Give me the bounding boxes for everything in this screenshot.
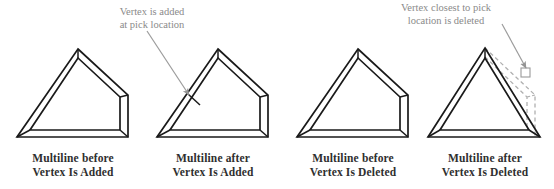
delete-annotation-line-2: location is deleted <box>378 15 514 28</box>
caption-1-line-1: Multiline before <box>8 152 138 166</box>
panel-3-joint-right <box>400 95 408 97</box>
panel-3-inner-outline <box>310 58 400 130</box>
caption-3-line-1: Multiline before <box>288 152 418 166</box>
panel-4-inner-outline <box>440 58 529 130</box>
add-annotation-leader-arrow <box>147 31 189 95</box>
panel-2-joint-right <box>260 95 268 97</box>
panel-3-joint-bottom-right <box>400 130 408 137</box>
add-annotation-line-1: Vertex is added <box>93 6 211 19</box>
panel-2-joint-bottom-right <box>260 130 268 137</box>
panel-4-ghost-joint-right <box>527 95 535 97</box>
caption-3-line-2: Vertex Is Deleted <box>288 166 418 180</box>
delete-annotation-line-1: Vertex closest to pick <box>378 2 514 15</box>
panel-3-shape-multiline-before-vertex-deleted <box>297 49 408 137</box>
caption-4-line-2: Vertex Is Deleted <box>420 166 550 180</box>
caption-1-line-2: Vertex Is Added <box>8 166 138 180</box>
panel-2-inner-outline <box>170 58 260 130</box>
caption-multiline-before-vertex-deleted: Multiline before Vertex Is Deleted <box>288 152 418 179</box>
caption-2-line-1: Multiline after <box>148 152 278 166</box>
caption-multiline-after-vertex-added: Multiline after Vertex Is Added <box>148 152 278 179</box>
add-annotation-text: Vertex is added at pick location <box>93 6 211 31</box>
delete-annotation-leader-arrow <box>502 24 526 68</box>
delete-annotation-text: Vertex closest to pick location is delet… <box>378 2 514 27</box>
add-annotation-line-2: at pick location <box>93 19 211 32</box>
caption-multiline-after-vertex-deleted: Multiline after Vertex Is Deleted <box>420 152 550 179</box>
panel-1-inner-outline <box>30 58 120 130</box>
panel-1-joint-bottom-right <box>120 130 128 137</box>
panel-1-joint-right <box>120 95 128 97</box>
caption-4-line-1: Multiline after <box>420 152 550 166</box>
panel-4-shape-multiline-after-vertex-deleted <box>428 48 540 137</box>
caption-2-line-2: Vertex Is Added <box>148 166 278 180</box>
panel-2-shape-multiline-after-vertex-added <box>157 49 268 137</box>
caption-multiline-before-vertex-added: Multiline before Vertex Is Added <box>8 152 138 179</box>
panel-1-shape-multiline-before-vertex-added <box>17 49 128 137</box>
pick-location-marker-icon <box>521 68 530 77</box>
